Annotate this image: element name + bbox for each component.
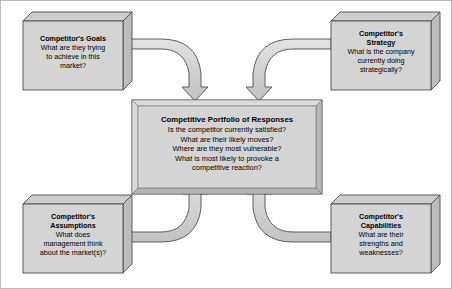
center-node-line-4: competitive reaction? <box>140 163 314 173</box>
center-node-line-1: What are their likely moves? <box>140 135 314 145</box>
center-node-line-2: Where are they most vulnerable? <box>140 144 314 154</box>
center-node-line-3: What is most likely to provoke a <box>140 154 314 164</box>
diagram-canvas: Competitor's Goals What are they trying … <box>0 0 452 289</box>
arrow-goals-to-center <box>123 39 208 101</box>
node-box-assumptions[interactable] <box>23 195 132 273</box>
node-box-goals[interactable] <box>23 12 132 90</box>
center-node-label: Competitive Portfolio of Responses Is th… <box>140 115 314 173</box>
node-box-strategy[interactable] <box>331 12 440 90</box>
node-box-capabilities[interactable] <box>331 195 440 273</box>
center-node-title: Competitive Portfolio of Responses <box>140 115 314 125</box>
center-node-line-0: Is the competitor currently satisfied? <box>140 125 314 135</box>
arrow-strategy-to-center <box>246 39 331 101</box>
